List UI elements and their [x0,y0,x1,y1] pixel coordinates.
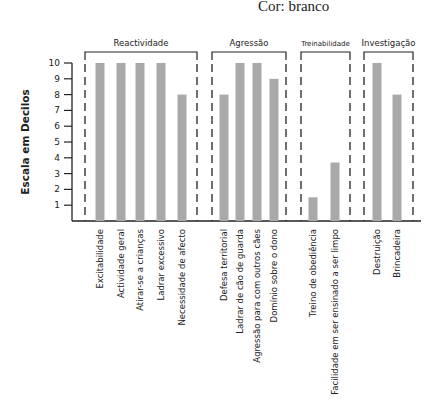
bar [309,197,318,221]
bar [178,95,187,221]
bar [117,63,126,221]
bar [220,95,229,221]
y-tick-label: 10 [49,58,61,68]
x-tick-label: Ladrar de cão de guarda [235,229,245,334]
x-tick-label: Actividade geral [116,229,126,298]
x-tick-label: Agressão para com outros cães [252,228,262,362]
y-tick-label: 1 [54,200,60,210]
bar [157,63,166,221]
y-axis-title: Escala em Decilos [19,89,31,195]
x-tick-label: Destruição [372,229,382,275]
x-tick-label: Defesa territorial [219,229,229,301]
x-tick-label: Treino de obediência [308,229,318,318]
x-tick-label: Atirar-se a crianças [135,228,145,310]
group-bracket [85,52,197,60]
bar [270,79,279,221]
x-tick-label: Necessidade de afecto [177,229,187,326]
bar [373,63,382,221]
bar-chart: 12345678910Escala em DecilosReactividade… [0,0,443,414]
y-tick-label: 2 [54,184,60,194]
group-bracket [212,52,286,60]
group-title: Agressão [229,38,268,48]
x-tick-label: Domínio sobre o dono [269,229,279,322]
y-tick-label: 4 [54,153,60,163]
y-tick-label: 3 [54,169,60,179]
x-tick-label: Ladrar excessivo [156,229,166,301]
group-bracket [364,52,413,60]
group-title: Treinabilidade [300,40,350,48]
group-title: Reactividade [114,38,169,48]
y-tick-label: 9 [54,74,60,84]
y-tick-label: 7 [54,105,60,115]
bar [331,163,340,221]
y-tick-label: 5 [54,137,60,147]
y-tick-label: 6 [54,121,60,131]
group-bracket [301,52,350,60]
bar [96,63,105,221]
bar [253,63,262,221]
group-title: Investigação [362,38,416,48]
bar [393,95,402,221]
bar [236,63,245,221]
bar [136,63,145,221]
x-tick-label: Brincadeira [392,229,402,278]
y-tick-label: 8 [54,90,60,100]
x-tick-label: Excitabilidade [95,229,105,289]
x-tick-label: Facilidade em ser ensinado a ser limpo [330,229,340,395]
